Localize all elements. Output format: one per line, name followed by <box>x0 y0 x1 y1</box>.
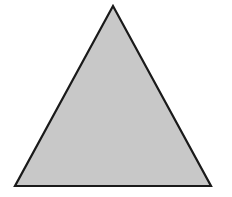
triangle-diagram <box>0 0 232 197</box>
triangle-shape <box>15 6 211 186</box>
